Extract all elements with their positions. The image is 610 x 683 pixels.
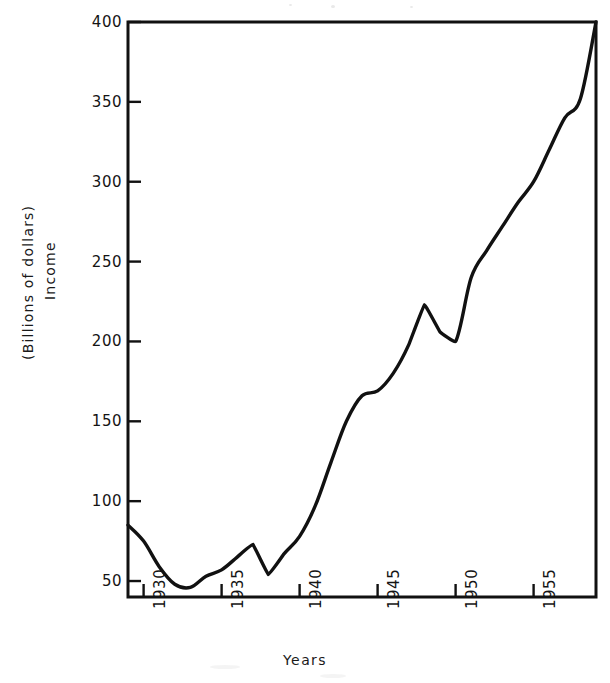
plot-frame xyxy=(128,22,596,597)
data-line-national-income xyxy=(128,22,596,588)
plot-area xyxy=(0,0,610,683)
chart-figure: Income (Billions of dollars) Years 50100… xyxy=(0,0,610,683)
axis-ticks xyxy=(128,22,534,597)
